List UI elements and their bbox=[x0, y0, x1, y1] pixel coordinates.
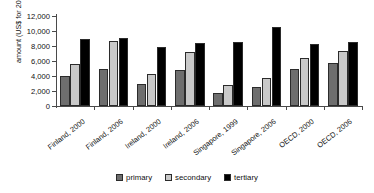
bar-tertiary bbox=[119, 38, 129, 106]
bar-tertiary bbox=[157, 47, 167, 106]
legend-swatch-icon bbox=[224, 174, 231, 181]
y-tick-label: 8,000 bbox=[31, 42, 50, 51]
x-tick-mark bbox=[324, 106, 325, 110]
bar-group bbox=[209, 16, 247, 106]
bar-tertiary bbox=[233, 42, 243, 107]
plot-area: 12,00010,0008,0006,0004,0002,0000 bbox=[56, 16, 362, 106]
bar-group bbox=[94, 16, 132, 106]
bar-secondary bbox=[185, 52, 195, 106]
bar-group bbox=[56, 16, 94, 106]
x-tick-mark bbox=[133, 106, 134, 110]
bar-primary bbox=[290, 69, 300, 106]
bar-primary bbox=[99, 69, 109, 107]
bar-tertiary bbox=[195, 43, 205, 106]
legend-label: tertiary bbox=[234, 173, 258, 182]
legend-label: primary bbox=[126, 173, 152, 182]
bar-primary bbox=[252, 87, 262, 106]
legend-item-secondary[interactable]: secondary bbox=[165, 173, 211, 182]
x-tick-mark bbox=[209, 106, 210, 110]
y-tick-label: 0 bbox=[46, 102, 50, 111]
bar-primary bbox=[175, 70, 185, 106]
chart-legend: primarysecondarytertiary bbox=[0, 173, 374, 182]
bar-tertiary bbox=[272, 27, 282, 107]
bar-group bbox=[324, 16, 362, 106]
legend-item-primary[interactable]: primary bbox=[116, 173, 152, 182]
legend-item-tertiary[interactable]: tertiary bbox=[224, 173, 258, 182]
y-tick-mark bbox=[52, 106, 56, 107]
y-tick-label: 12,000 bbox=[27, 12, 50, 21]
bar-primary bbox=[213, 93, 223, 106]
y-tick-label: 10,000 bbox=[27, 27, 50, 36]
bar-group bbox=[133, 16, 171, 106]
legend-label: secondary bbox=[175, 173, 211, 182]
legend-swatch-icon bbox=[165, 174, 172, 181]
y-tick-label: 4,000 bbox=[31, 72, 50, 81]
y-tick-label: 6,000 bbox=[31, 57, 50, 66]
x-tick-mark bbox=[362, 106, 363, 110]
bar-secondary bbox=[300, 58, 310, 106]
bar-tertiary bbox=[348, 42, 358, 107]
bar-secondary bbox=[147, 74, 157, 106]
bar-primary bbox=[328, 63, 338, 106]
bar-secondary bbox=[70, 64, 80, 106]
y-axis-title: amount (US$ for 2000) bbox=[14, 0, 23, 81]
bar-group bbox=[171, 16, 209, 106]
bar-tertiary bbox=[310, 44, 320, 106]
x-tick-mark bbox=[247, 106, 248, 110]
legend-swatch-icon bbox=[116, 174, 123, 181]
bar-secondary bbox=[338, 51, 348, 107]
bar-tertiary bbox=[80, 39, 90, 107]
y-tick-label: 2,000 bbox=[31, 87, 50, 96]
bar-group bbox=[247, 16, 285, 106]
bar-group bbox=[286, 16, 324, 106]
x-tick-mark bbox=[171, 106, 172, 110]
x-tick-mark bbox=[94, 106, 95, 110]
bar-primary bbox=[60, 76, 70, 106]
bar-secondary bbox=[109, 41, 119, 106]
x-tick-mark bbox=[286, 106, 287, 110]
bar-chart: amount (US$ for 2000) 12,00010,0008,0006… bbox=[0, 0, 374, 193]
bar-secondary bbox=[262, 78, 272, 106]
bar-primary bbox=[137, 84, 147, 106]
bar-secondary bbox=[223, 85, 233, 106]
